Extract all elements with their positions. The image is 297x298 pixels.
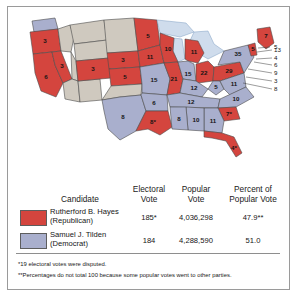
leader-ct: [254, 62, 272, 65]
footnotes: *19 electoral votes were disputed. **Per…: [18, 259, 284, 281]
footnote-1-text: 19 electoral votes were disputed.: [20, 261, 106, 267]
leader-ri: [256, 58, 272, 59]
state-tx: [102, 95, 146, 140]
hayes-percent: 47.9**: [220, 213, 286, 222]
tilden-percent: 51.0: [220, 236, 286, 245]
leader-de: [246, 77, 272, 81]
swatch-democrat: [20, 233, 47, 249]
state-me: [257, 27, 274, 49]
figure-frame: .S{stroke:#4c4c4c;stroke-width:0.6;strok…: [7, 6, 290, 290]
state-tn: [167, 93, 220, 108]
table-row-tilden: Samuel J. Tilden (Democrat) 184 4,288,59…: [8, 230, 288, 252]
tilden-popular-vote: 4,288,590: [174, 236, 218, 245]
map-svg: .S{stroke:#4c4c4c;stroke-width:0.6;strok…: [8, 7, 288, 182]
table-row-hayes: Rutherford B. Hayes (Republican) 185* 4,…: [8, 207, 288, 229]
state-fl: [204, 131, 242, 157]
callout-md: 8: [274, 85, 278, 92]
header-electoral-vote-line1: Electoral: [128, 184, 170, 194]
table-bottom-rule: [16, 253, 280, 254]
candidate-hayes: Rutherford B. Hayes (Republican): [50, 208, 130, 225]
callout-ct: 6: [274, 61, 278, 68]
state-dt: [104, 18, 138, 53]
leader-nj: [248, 69, 272, 73]
state-ks: [109, 67, 142, 86]
header-electoral-vote-line2: Vote: [128, 194, 170, 204]
header-candidate: Candidate: [34, 194, 126, 204]
state-wy: [74, 40, 109, 61]
candidate-hayes-party: (Republican): [50, 217, 130, 226]
header-popular-vote: Popular Vote: [174, 184, 218, 204]
electoral-map: .S{stroke:#4c4c4c;stroke-width:0.6;strok…: [8, 7, 288, 182]
callout-ma: 13: [274, 46, 281, 53]
state-co: [76, 58, 111, 81]
header-popular-vote-line1: Popular: [174, 184, 218, 194]
candidate-tilden: Samuel J. Tilden (Democrat): [50, 231, 130, 248]
state-ne: [107, 51, 140, 69]
state-or: [30, 29, 61, 54]
state-ms: [170, 107, 188, 130]
swatch-republican: [20, 210, 47, 226]
state-ar: [141, 93, 168, 111]
hayes-electoral-vote: 185*: [128, 213, 170, 222]
callout-nj: 9: [274, 69, 278, 76]
hayes-popular-vote: 4,036,298: [174, 213, 218, 222]
callout-de: 3: [274, 77, 278, 84]
header-popular-vote-line2: Vote: [174, 194, 218, 204]
tilden-electoral-vote: 184: [128, 236, 170, 245]
header-percent: Percent of Popular Vote: [220, 184, 286, 204]
state-al: [186, 107, 204, 131]
state-oh: [196, 61, 214, 83]
callout-ri: 4: [274, 54, 278, 61]
candidate-tilden-party: (Democrat): [50, 240, 130, 249]
leader-md: [243, 83, 272, 89]
state-az: [63, 79, 80, 102]
header-percent-line2: Popular Vote: [220, 194, 286, 204]
state-nm: [78, 79, 102, 102]
header-electoral-vote: Electoral Vote: [128, 184, 170, 204]
footnote-2: **Percentages do not total 100 because s…: [18, 270, 284, 280]
header-percent-line1: Percent of: [220, 184, 286, 194]
footnote-2-text: Percentages do not total 100 because som…: [23, 272, 232, 278]
table-header-row: Candidate Electoral Vote Popular Vote Pe…: [8, 183, 288, 207]
footnote-1: *19 electoral votes were disputed.: [18, 259, 284, 269]
results-table: Candidate Electoral Vote Popular Vote Pe…: [8, 183, 288, 253]
leader-ma: [257, 50, 272, 52]
